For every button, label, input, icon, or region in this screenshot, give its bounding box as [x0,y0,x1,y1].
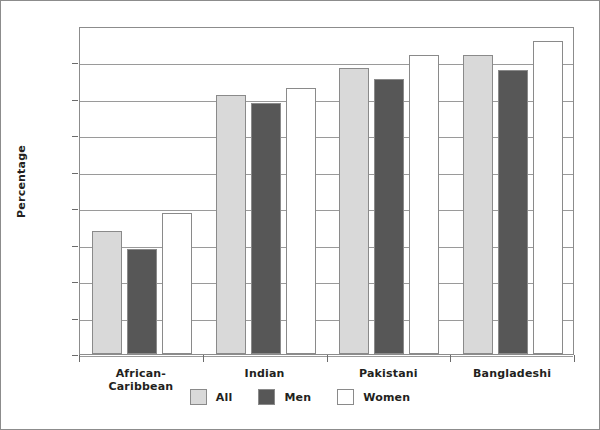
x-axis-category-label-line: Bangladeshi [450,367,574,380]
bar [251,103,281,354]
legend-label: All [216,391,233,404]
bar [162,213,192,354]
plot-area [79,27,574,355]
legend-item[interactable]: All [190,389,233,405]
y-axis-title-text: Percentage [15,145,28,218]
legend-item[interactable]: Men [258,389,311,405]
x-axis-category-label: Bangladeshi [450,367,574,380]
y-axis-tick-mark [72,319,78,320]
bar [409,55,439,354]
gridline [80,64,573,65]
legend-label: Women [363,391,410,404]
bar [127,249,157,354]
x-axis-tick-mark [327,355,328,362]
chart-legend: AllMenWomen [1,389,599,405]
bar [374,79,404,354]
y-axis-tick-mark [72,246,78,247]
y-axis-tick-mark [72,173,78,174]
legend-label: Men [284,391,311,404]
legend-swatch [190,389,207,405]
x-axis-tick-mark [203,355,204,362]
bar [216,95,246,354]
legend-item[interactable]: Women [337,389,410,405]
x-axis-tick-mark [79,355,80,362]
y-axis-tick-mark [72,282,78,283]
bar [92,231,122,354]
legend-swatch [337,389,354,405]
bar [463,55,493,354]
x-axis-category-label: Pakistani [327,367,451,380]
y-axis-tick-mark [72,209,78,210]
y-axis-tick-mark [72,355,78,356]
y-axis-tick-mark [72,136,78,137]
chart-figure: Percentage 0102030405060708090 African-C… [0,0,600,430]
x-axis-category-label-line: Indian [203,367,327,380]
x-axis-tick-mark [574,355,575,362]
bar [533,41,563,354]
bar [286,88,316,354]
bar [339,68,369,354]
x-axis-category-label: Indian [203,367,327,380]
y-axis-title: Percentage [7,1,35,361]
y-axis-tick-mark [72,100,78,101]
legend-swatch [258,389,275,405]
y-axis-tick-mark [72,63,78,64]
x-axis-tick-mark [450,355,451,362]
bar [498,70,528,354]
x-axis-category-label-line: African- [79,367,203,380]
x-axis-category-label-line: Pakistani [327,367,451,380]
